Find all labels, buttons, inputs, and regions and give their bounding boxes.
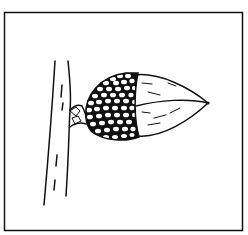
tip	[206, 101, 209, 104]
nut	[133, 75, 209, 137]
cap	[86, 73, 139, 140]
illustration: acorn on branch	[0, 0, 248, 235]
stalk	[70, 107, 81, 124]
branch	[44, 61, 86, 205]
acorn-drawing	[0, 0, 248, 235]
